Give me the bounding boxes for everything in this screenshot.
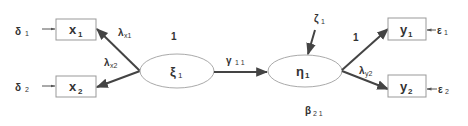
svg-text:1: 1 [78, 30, 83, 39]
svg-text:δ: δ [15, 82, 21, 93]
observed-x2-box: x 2 [56, 76, 96, 97]
sem-path-diagram: δ 1 δ 2 x 1 x 2 λ x1 λ x2 1 ξ 1 γ 1 1 [0, 0, 468, 126]
svg-text:η: η [296, 64, 304, 79]
svg-text:1: 1 [321, 18, 325, 25]
svg-text:ε: ε [438, 84, 443, 95]
svg-text:2 1: 2 1 [313, 110, 323, 117]
svg-text:1: 1 [444, 29, 448, 36]
xi1-fixed-variance-label: 1 [171, 31, 177, 42]
svg-text:1 1: 1 1 [235, 59, 245, 66]
svg-text:δ: δ [15, 26, 21, 37]
svg-text:x1: x1 [124, 32, 132, 39]
zeta-1-disturbance: ζ 1 [308, 13, 325, 54]
svg-text:1: 1 [408, 30, 413, 39]
svg-text:1: 1 [25, 30, 29, 37]
latent-xi1-ellipse: ξ 1 [140, 54, 214, 88]
path-eta1-y1 [342, 29, 388, 70]
delta-2-error: δ 2 [15, 82, 55, 93]
delta-1-error: δ 1 [15, 26, 55, 37]
epsilon-2-error: ε 2 [427, 84, 449, 95]
svg-text:y2: y2 [365, 70, 373, 78]
y1-loading-fixed-label: 1 [353, 32, 359, 43]
svg-text:x2: x2 [110, 62, 118, 69]
observed-y2-box: y 2 [388, 75, 426, 97]
lambda-x2-label: λ x2 [104, 57, 118, 69]
observed-y1-box: y 1 [388, 18, 426, 40]
epsilon-1-error: ε 1 [427, 25, 448, 36]
svg-text:γ: γ [226, 55, 232, 66]
svg-text:ζ: ζ [314, 13, 319, 25]
path-xi1-x2 [97, 71, 140, 87]
svg-text:2: 2 [25, 86, 29, 93]
lambda-x1-label: λ x1 [118, 27, 132, 39]
svg-text:y: y [400, 79, 408, 94]
beta-21-label: β 2 1 [305, 105, 323, 117]
zeta-1-arrow [308, 30, 315, 54]
svg-text:ε: ε [437, 25, 442, 36]
svg-text:1: 1 [178, 71, 183, 80]
gamma-11-label: γ 1 1 [226, 55, 245, 66]
svg-text:x: x [69, 22, 77, 37]
svg-text:β: β [305, 105, 311, 116]
svg-text:2: 2 [408, 87, 413, 96]
svg-text:ξ: ξ [170, 64, 176, 79]
observed-x1-box: x 1 [56, 19, 96, 40]
latent-eta1-ellipse: η 1 [268, 55, 342, 87]
svg-text:2: 2 [78, 87, 83, 96]
svg-text:y: y [400, 22, 408, 37]
lambda-y2-label: λ y2 [359, 65, 373, 78]
svg-text:2: 2 [445, 88, 449, 95]
svg-text:1: 1 [305, 71, 310, 80]
svg-text:x: x [69, 79, 77, 94]
